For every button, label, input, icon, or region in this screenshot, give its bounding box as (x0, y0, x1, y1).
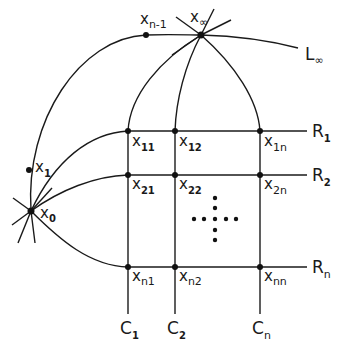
curve-xinf-to-col1 (128, 35, 201, 131)
label-x1: x1 (35, 158, 51, 179)
label-xn2: xn2 (179, 267, 202, 288)
label-R1: R1 (312, 121, 331, 144)
label-C2: C2 (167, 318, 186, 341)
label-x1n: x1n (264, 132, 287, 154)
label-x11: x11 (132, 132, 155, 153)
label-xnn: xnn (264, 267, 287, 288)
label-x12: x12 (179, 132, 202, 153)
label-xn1: xn1 (132, 267, 155, 288)
configuration-diagram: xn-1 x∞ L∞ x1 x0 x11 x12 x1n x21 x22 x2n… (0, 0, 339, 349)
label-x22: x22 (179, 175, 202, 196)
label-x-inf: x∞ (190, 8, 208, 29)
label-x-n-minus-1: xn-1 (140, 10, 167, 31)
label-C1: C1 (120, 318, 139, 341)
line-L-infinity (31, 35, 298, 211)
curve-xinf-to-coln (201, 35, 260, 131)
label-Rn: Rn (312, 257, 331, 281)
label-x2n: x2n (264, 175, 287, 197)
label-Cn: Cn (252, 318, 271, 342)
label-R2: R2 (312, 165, 331, 188)
label-L-inf: L∞ (305, 44, 324, 67)
label-x0: x0 (40, 204, 56, 224)
label-x21: x21 (132, 175, 155, 196)
ellipsis-cross (192, 196, 238, 242)
